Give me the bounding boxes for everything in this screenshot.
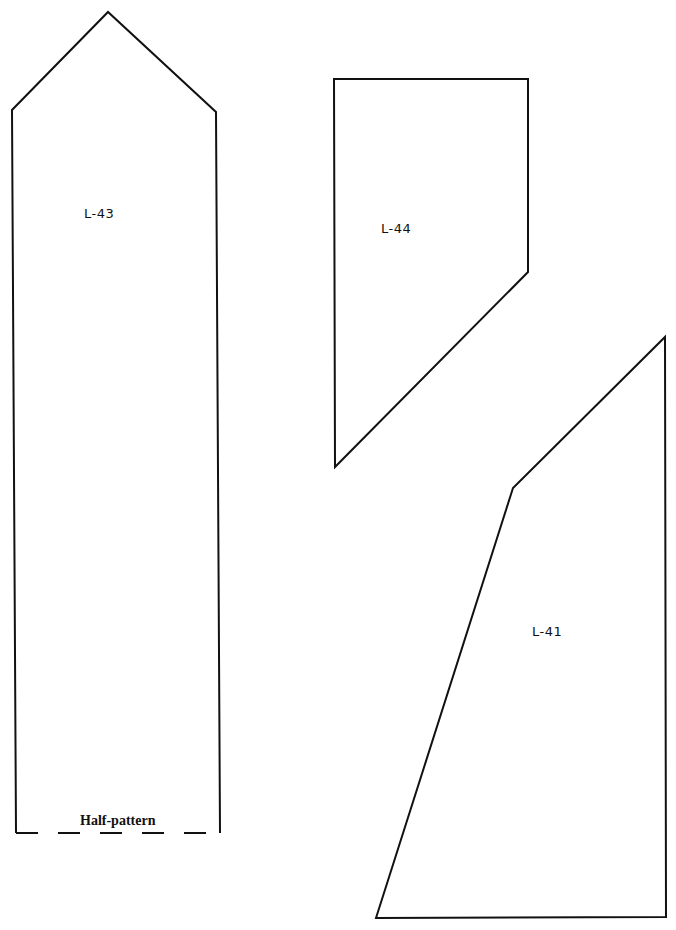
piece-label-l41: L-41 — [532, 624, 562, 639]
piece-label-l44: L-44 — [381, 221, 411, 236]
pattern-canvas — [0, 0, 676, 930]
pattern-piece-l41-outline — [376, 337, 666, 918]
piece-label-l43: L-43 — [84, 206, 114, 221]
half-pattern-note: Half-pattern — [77, 813, 158, 829]
pattern-piece-l43-outline — [12, 12, 220, 833]
pattern-piece-l44-outline — [334, 79, 528, 467]
